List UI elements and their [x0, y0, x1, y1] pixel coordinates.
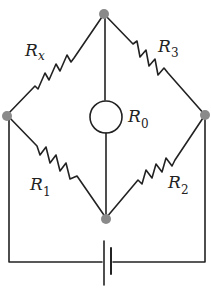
resistor-r1 [7, 115, 106, 218]
svg-text:R: R [157, 36, 171, 56]
left-node [2, 111, 12, 121]
battery-loop [9, 115, 205, 285]
svg-text:0: 0 [141, 117, 149, 131]
bottom-node [101, 214, 111, 224]
r0-branch [90, 14, 122, 218]
label-r2: R 2 [167, 172, 189, 197]
right-node [200, 110, 210, 120]
label-rx: R x [24, 40, 45, 63]
svg-text:R: R [24, 40, 38, 60]
r0-meter-circle [90, 101, 122, 133]
svg-text:2: 2 [181, 183, 189, 197]
svg-text:3: 3 [171, 46, 179, 60]
label-r1: R 1 [29, 174, 51, 199]
svg-text:R: R [127, 106, 141, 126]
resistor-r2 [106, 115, 205, 218]
resistor-r3 [104, 14, 205, 115]
svg-text:R: R [29, 174, 43, 194]
svg-text:R: R [167, 172, 181, 192]
svg-text:1: 1 [43, 185, 51, 199]
wheatstone-bridge-diagram: R x R 3 R 0 R 1 R 2 [0, 0, 211, 291]
label-r0: R 0 [127, 106, 149, 131]
resistor-rx [7, 14, 104, 115]
svg-text:x: x [38, 49, 45, 63]
top-node [99, 9, 109, 19]
label-r3: R 3 [157, 36, 179, 60]
